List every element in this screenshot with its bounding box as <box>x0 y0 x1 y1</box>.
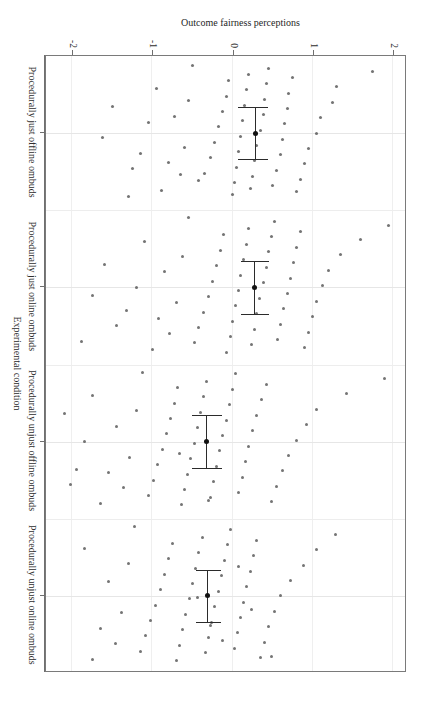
data-point <box>211 280 214 283</box>
data-point <box>154 604 157 607</box>
data-point <box>115 425 118 428</box>
data-point <box>383 377 386 380</box>
data-point <box>245 88 248 91</box>
data-point <box>315 132 318 135</box>
data-point <box>339 253 342 256</box>
data-point <box>267 625 270 628</box>
x-axis-tick <box>40 595 45 596</box>
data-point <box>270 235 273 238</box>
data-point <box>334 533 337 536</box>
error-bar-cap <box>196 622 221 623</box>
data-point <box>213 605 216 608</box>
data-point <box>231 193 234 196</box>
data-point <box>228 403 231 406</box>
data-point <box>189 457 192 460</box>
data-point <box>178 644 181 647</box>
data-point <box>307 331 310 334</box>
data-point <box>147 121 150 124</box>
data-point <box>295 190 298 193</box>
data-point <box>247 227 250 230</box>
data-point <box>173 402 176 405</box>
data-point <box>168 332 171 335</box>
mean-marker <box>253 285 258 290</box>
data-point <box>219 249 222 252</box>
data-point <box>196 596 199 599</box>
data-point <box>159 588 162 591</box>
data-point <box>267 67 270 70</box>
data-point <box>151 348 154 351</box>
data-point <box>251 175 254 178</box>
data-point <box>193 442 196 445</box>
data-point <box>239 274 242 277</box>
data-point <box>226 543 229 546</box>
data-point <box>345 392 348 395</box>
mean-marker <box>205 593 210 598</box>
data-point <box>265 266 268 269</box>
data-point <box>91 658 94 661</box>
data-point <box>147 494 150 497</box>
rotated-figure-wrapper: 210-1-2 Outcome fairness perceptions Exp… <box>0 0 427 727</box>
data-point <box>263 641 266 644</box>
data-point <box>80 340 83 343</box>
data-point <box>221 639 224 642</box>
data-point <box>209 624 212 627</box>
data-point <box>111 105 114 108</box>
data-point <box>127 562 130 565</box>
data-point <box>221 434 224 437</box>
y-axis-tick <box>233 50 234 55</box>
data-point <box>249 187 252 190</box>
data-point <box>133 525 136 528</box>
data-point <box>125 309 128 312</box>
category-gridline <box>46 596 405 597</box>
data-point <box>249 570 252 573</box>
data-point <box>237 150 240 153</box>
data-point <box>259 656 262 659</box>
data-point <box>83 440 86 443</box>
data-point <box>303 162 306 165</box>
data-point <box>273 220 276 223</box>
data-point <box>253 328 256 331</box>
data-point <box>181 628 184 631</box>
data-point <box>359 238 362 241</box>
data-point <box>218 449 221 452</box>
data-point <box>233 181 236 184</box>
data-point <box>295 246 298 249</box>
data-point <box>371 70 374 73</box>
y-axis-tick <box>72 50 73 55</box>
data-point <box>292 261 295 264</box>
data-point <box>135 286 138 289</box>
data-point <box>279 323 282 326</box>
data-point <box>234 304 237 307</box>
data-point <box>265 383 268 386</box>
mean-marker <box>253 131 258 136</box>
data-point <box>239 616 242 619</box>
data-point <box>225 351 228 354</box>
y-axis-tick <box>313 50 314 55</box>
data-point <box>205 380 208 383</box>
data-point <box>179 173 182 176</box>
data-point <box>180 503 183 506</box>
data-point <box>251 429 254 432</box>
data-point <box>197 326 200 329</box>
data-point <box>167 557 170 560</box>
data-point <box>181 255 184 258</box>
data-point <box>237 491 240 494</box>
data-point <box>302 564 305 567</box>
data-point <box>299 178 302 181</box>
data-point <box>279 153 282 156</box>
data-point <box>155 87 158 90</box>
data-point <box>281 138 284 141</box>
data-point <box>63 412 66 415</box>
data-point <box>207 295 210 298</box>
data-point <box>252 554 255 557</box>
data-point <box>204 651 207 654</box>
y-axis-tick-label: 2 <box>389 4 399 48</box>
data-point <box>163 270 166 273</box>
data-point <box>286 292 289 295</box>
data-point <box>250 343 253 346</box>
data-point <box>258 297 261 300</box>
data-point <box>259 129 262 132</box>
data-point <box>236 631 239 634</box>
data-point <box>235 166 238 169</box>
data-point <box>217 590 220 593</box>
